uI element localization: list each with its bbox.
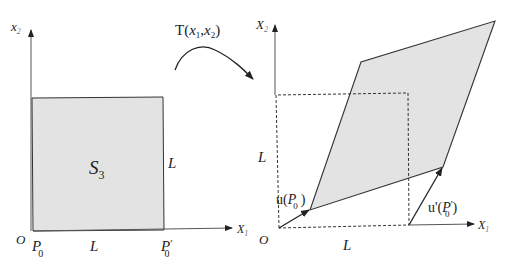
bottom-side-length-label: L [89, 238, 98, 254]
left-y-axis-label: x2 [10, 19, 21, 36]
right-x-axis [409, 224, 474, 225]
point-p0-prime-label: P′0 [160, 237, 173, 259]
u-p0-label: u(P0) [276, 192, 306, 211]
point-p0-label: P0 [31, 238, 43, 259]
transform-mapping: T(x1,x2) [175, 22, 253, 79]
right-y-axis-label: X2 [255, 17, 268, 34]
right-x-axis-label: X1 [477, 218, 489, 234]
diagram-svg: x2 X1 O S3 L L P0 P′0 T(x1,x2) [0, 0, 506, 270]
right-origin-label: O [259, 232, 269, 247]
left-x-axis-label: X1 [236, 222, 248, 238]
u-prime-p0-prime-label: u'(P′0) [428, 199, 457, 219]
deformation-diagram: x2 X1 O S3 L L P0 P′0 T(x1,x2) [0, 0, 506, 270]
right-panel: X2 X1 O L L u(P0) u'(P′0) [255, 17, 495, 253]
transform-label: T(x1,x2) [175, 22, 220, 40]
right-side-length-label: L [167, 155, 176, 171]
displacement-vector-u [279, 210, 309, 228]
deformed-parallelogram [310, 21, 495, 210]
transform-curved-arrow [175, 47, 253, 79]
left-side-length-label: L [257, 149, 266, 165]
left-origin-label: O [16, 232, 26, 247]
left-panel: x2 X1 O S3 L L P0 P′0 [10, 19, 248, 259]
bottom-side-length-label-right: L [342, 237, 351, 253]
